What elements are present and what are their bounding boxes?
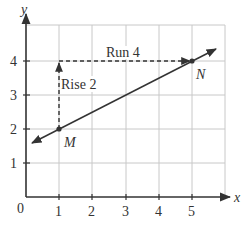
x-tick-label: 4 [155, 204, 162, 219]
point-n [189, 58, 194, 63]
x-tick-label: 5 [188, 204, 195, 219]
x-tick-label: 1 [55, 204, 62, 219]
x-axis-label: x [233, 190, 241, 205]
y-tick-label: 2 [10, 122, 17, 137]
point-m [56, 126, 61, 131]
rise-label: Rise 2 [61, 77, 96, 92]
y-tick-label: 3 [10, 88, 17, 103]
point-m-label: M [63, 135, 77, 150]
y-tick-label: 4 [10, 54, 17, 69]
x-tick-label: 2 [88, 204, 95, 219]
y-tick-label: 1 [10, 156, 17, 171]
point-n-label: N [195, 67, 206, 82]
origin-label: 0 [17, 201, 24, 216]
y-axis-label: y [19, 2, 28, 17]
run-label: Run 4 [106, 45, 140, 60]
x-tick-label: 3 [122, 204, 129, 219]
coordinate-plane: x y 0 1 2 3 4 5 1 2 3 4 M N Rise 2 Run 4 [0, 0, 251, 226]
